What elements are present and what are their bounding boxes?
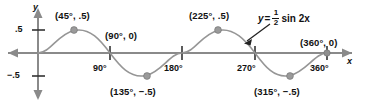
equation-function: sin 2x: [281, 13, 309, 24]
point-label-90: (90°, 0): [105, 31, 137, 41]
point-label-45: (45°, .5): [55, 11, 90, 21]
point-label-135: (135°, −.5): [110, 87, 156, 97]
x-axis-label: x: [347, 56, 352, 66]
sine-graph-figure: y x .5 −.5 90° 180° 270° 360° (45°, .5) …: [0, 0, 367, 107]
point-label-225: (225°, .5): [189, 11, 229, 21]
y-axis-label: y: [33, 2, 38, 12]
point-label-360: (360°, 0): [300, 38, 337, 48]
equation-annotation-arrow: [244, 24, 270, 46]
y-tick-label-neg-0-5: −.5: [7, 70, 20, 80]
point-45: [71, 27, 78, 34]
fraction-denominator: 2: [273, 19, 279, 27]
point-360: [324, 50, 330, 56]
x-tick-label-90: 90°: [93, 63, 107, 73]
x-tick-label-270: 270°: [237, 63, 256, 73]
equation-label: y = 1 2 sin 2x: [258, 9, 310, 27]
equation-fraction: 1 2: [272, 9, 279, 27]
equation-equals: =: [265, 13, 271, 24]
fraction-numerator: 1: [273, 9, 279, 17]
point-225: [215, 27, 222, 34]
equation-lhs: y: [258, 13, 264, 24]
x-tick-label-360: 360°: [310, 63, 329, 73]
point-315: [287, 73, 294, 80]
x-tick-label-180: 180°: [164, 63, 183, 73]
point-label-315: (315°, −.5): [254, 87, 300, 97]
point-135: [144, 73, 151, 80]
y-tick-label-0-5: .5: [15, 24, 23, 34]
